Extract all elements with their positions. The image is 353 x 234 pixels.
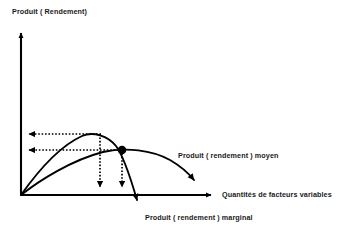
average-product-curve-label: Produit ( rendement ) moyen — [178, 151, 279, 160]
production-function-diagram: Produit ( Rendement) Quantités de facteu… — [0, 0, 353, 234]
marginal-product-curve-label: Produit ( rendement ) marginal — [145, 213, 253, 222]
y-axis-title: Produit ( Rendement) — [12, 7, 87, 16]
intersection-point-marker — [118, 146, 127, 155]
marginal-product-curve — [21, 134, 137, 200]
average-product-curve — [21, 150, 194, 195]
x-axis-title: Quantités de facteurs variables — [222, 190, 332, 199]
